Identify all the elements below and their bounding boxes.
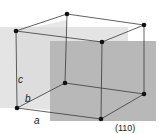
vertex-dot — [100, 40, 105, 45]
label-b: b — [25, 93, 31, 104]
vertex-dot — [142, 23, 147, 28]
vertex-dot — [99, 117, 104, 122]
label-c: c — [18, 74, 23, 85]
vertex-dot — [15, 106, 20, 111]
unit-cell-svg: c b a (110) — [0, 0, 164, 134]
vertex-dot — [142, 92, 147, 97]
vertex-dot — [63, 81, 68, 86]
unit-cell-diagram: c b a (110) — [0, 0, 164, 134]
vertex-dot — [14, 29, 19, 34]
vertex-dot — [65, 12, 70, 17]
label-plane-110: (110) — [115, 123, 135, 133]
label-a: a — [34, 115, 40, 126]
